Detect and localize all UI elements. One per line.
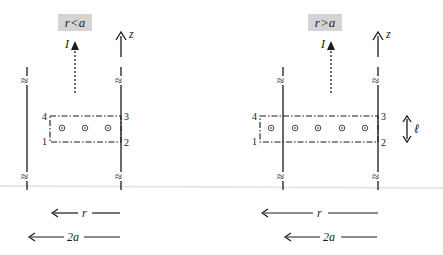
- current-label: I: [320, 37, 326, 51]
- break-mark-icon: ≈: [372, 73, 379, 88]
- break-mark-icon: ≈: [21, 169, 28, 184]
- loop-length-arrow-icon: [403, 116, 411, 142]
- radius-label: r: [82, 206, 87, 220]
- break-mark-icon: ≈: [115, 169, 122, 184]
- z-axis-arrow-icon: [373, 32, 383, 57]
- break-mark-icon: ≈: [115, 73, 122, 88]
- right-panel: I z ≈ ≈ ≈ ≈ 4 3 1 2: [252, 27, 420, 244]
- z-axis-label: z: [385, 27, 391, 41]
- break-mark-icon: ≈: [277, 169, 284, 184]
- corner-label-1: 1: [42, 136, 47, 147]
- corner-label-4: 4: [252, 111, 257, 122]
- loop-length-label: ℓ: [414, 121, 420, 136]
- corner-label-3: 3: [124, 111, 129, 122]
- corner-label-1: 1: [252, 136, 257, 147]
- left-conductor-line: ≈ ≈: [277, 67, 284, 190]
- radius-label: r: [317, 206, 322, 220]
- current-arrow-icon: [327, 41, 335, 93]
- corner-label-2: 2: [381, 137, 386, 148]
- page-separator: [0, 186, 443, 188]
- corner-label-2: 2: [124, 137, 129, 148]
- diameter-label: 2a: [323, 230, 335, 244]
- z-axis-label: z: [128, 27, 134, 41]
- corner-label-3: 3: [381, 111, 386, 122]
- z-axis-arrow-icon: [116, 32, 126, 57]
- current-arrow-icon: [71, 41, 79, 93]
- ampere-loop-diagram: I z ≈ ≈ ≈ ≈ 4 3 1 2: [0, 0, 443, 255]
- break-mark-icon: ≈: [372, 169, 379, 184]
- left-conductor-line: ≈ ≈: [21, 67, 28, 190]
- field-out-of-page-icon: [59, 125, 111, 131]
- left-panel: I z ≈ ≈ ≈ ≈ 4 3 1 2: [21, 27, 134, 244]
- amperian-loop: [260, 116, 378, 142]
- break-mark-icon: ≈: [21, 73, 28, 88]
- break-mark-icon: ≈: [277, 73, 284, 88]
- current-label: I: [64, 37, 70, 51]
- diameter-label: 2a: [67, 230, 79, 244]
- corner-label-4: 4: [42, 111, 47, 122]
